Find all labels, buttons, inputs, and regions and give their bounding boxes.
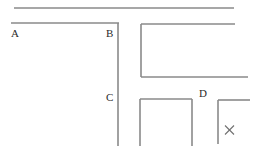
segments-group xyxy=(11,8,250,146)
point-label-d: D xyxy=(199,88,207,99)
x-mark xyxy=(225,126,234,135)
line-drawing xyxy=(0,0,262,146)
diagram-canvas: ABCD xyxy=(0,0,262,146)
point-label-b: B xyxy=(106,28,113,39)
point-label-c: C xyxy=(106,92,113,103)
marks-group xyxy=(225,126,234,135)
point-label-a: A xyxy=(11,28,19,39)
